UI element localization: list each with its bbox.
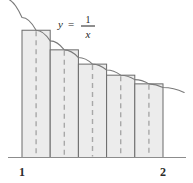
x-tick-label-2: 2 (160, 165, 166, 179)
function-label-equals: = (68, 18, 74, 30)
function-label: y = 1 x (57, 14, 95, 40)
function-label-numerator: 1 (86, 14, 91, 25)
figure-container: 1 2 y = 1 x (0, 0, 193, 183)
midpoint-rule-diagram: 1 2 y = 1 x (0, 0, 193, 183)
x-tick-label-1: 1 (19, 165, 25, 179)
function-label-y: y (57, 18, 63, 30)
function-label-denominator: x (85, 28, 91, 40)
